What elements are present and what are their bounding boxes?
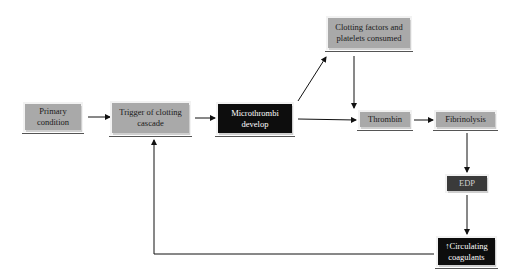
node-edp: EDP bbox=[447, 176, 487, 191]
edge-micro-thrombin bbox=[298, 119, 356, 120]
node-label: Fibrinolysis bbox=[445, 114, 486, 125]
edge-micro-clotting bbox=[298, 57, 326, 101]
node-microthrombi-develop: Microthrombi develop bbox=[218, 104, 292, 133]
flow-diagram: Primary condition Trigger of clotting ca… bbox=[0, 0, 521, 279]
node-label: EDP bbox=[459, 178, 475, 189]
node-label: Thrombin bbox=[368, 114, 402, 125]
node-label: Primary condition bbox=[28, 106, 78, 128]
node-trigger-clotting-cascade: Trigger of clotting cascade bbox=[112, 103, 189, 133]
node-label: Microthrombi develop bbox=[221, 108, 289, 130]
node-clotting-factors-consumed: Clotting factors and platelets consumed bbox=[328, 18, 410, 48]
node-fibrinolysis: Fibrinolysis bbox=[436, 112, 495, 127]
node-circulating-coagulants: ↑Circulating coagulants bbox=[438, 238, 495, 265]
edge-circ-trigger bbox=[154, 140, 434, 254]
node-thrombin: Thrombin bbox=[360, 112, 410, 127]
node-primary-condition: Primary condition bbox=[25, 104, 81, 130]
node-label: Trigger of clotting cascade bbox=[115, 107, 186, 129]
node-label: ↑Circulating coagulants bbox=[441, 241, 492, 263]
node-label: Clotting factors and platelets consumed bbox=[331, 22, 407, 44]
